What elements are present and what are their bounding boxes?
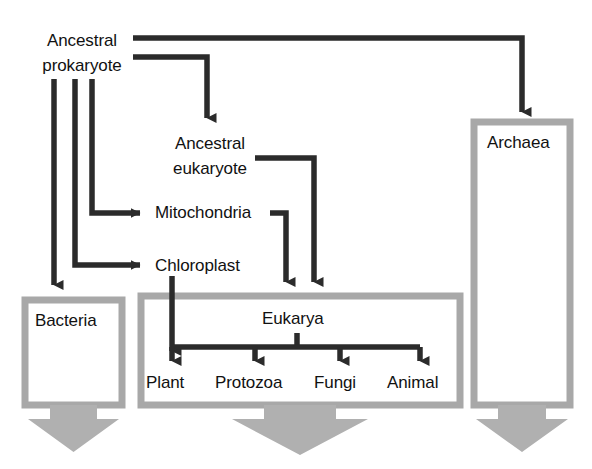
- edge-prokaryote-to-archaea: [133, 38, 522, 112]
- ancestral-eukaryote-line2: eukaryote: [173, 159, 247, 178]
- domain-label-bacteria: Bacteria: [35, 309, 97, 333]
- node-label-ancestral-eukaryote: Ancestral eukaryote: [163, 131, 257, 181]
- kingdom-label-protozoa: Protozoa: [215, 371, 282, 395]
- node-label-chloroplast: Chloroplast: [155, 254, 240, 278]
- node-label-eukarya: Eukarya: [262, 307, 324, 331]
- node-label-mitochondria: Mitochondria: [155, 201, 251, 225]
- ancestral-prokaryote-line1: Ancestral: [47, 31, 117, 50]
- domain-box-archaea: [474, 122, 570, 452]
- diagram-canvas: Ancestral prokaryote Ancestral eukaryote…: [0, 0, 592, 469]
- ancestral-prokaryote-line2: prokaryote: [42, 56, 121, 75]
- edge-prokaryote-to-mitochondria: [92, 79, 140, 213]
- kingdom-label-fungi: Fungi: [314, 371, 356, 395]
- kingdom-label-plant: Plant: [146, 371, 184, 395]
- edge-mitochondria-to-eukarya: [270, 213, 286, 282]
- edge-prokaryote-to-ancestral-eukaryote: [133, 57, 207, 118]
- ancestral-eukaryote-line1: Ancestral: [175, 134, 245, 153]
- edge-prokaryote-to-chloroplast: [75, 79, 140, 265]
- figure-caption: [6, 455, 586, 467]
- node-label-ancestral-prokaryote: Ancestral prokaryote: [33, 28, 131, 78]
- kingdom-label-animal: Animal: [387, 371, 438, 395]
- domain-label-archaea: Archaea: [487, 131, 550, 155]
